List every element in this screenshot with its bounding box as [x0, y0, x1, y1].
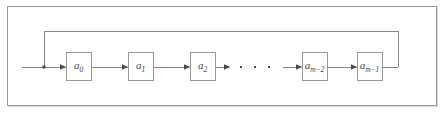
- ellipsis-dot-1: [240, 66, 242, 68]
- cell-box-2[interactable]: [190, 52, 215, 80]
- feedback-junction-dot: [43, 66, 46, 69]
- arrowhead-into-cell1: [122, 64, 128, 70]
- cell-box-1[interactable]: [128, 52, 153, 80]
- arrowhead-into-cellm2: [296, 64, 302, 70]
- arrowhead-into-cellm1: [351, 64, 357, 70]
- cell-box-m-2[interactable]: [302, 52, 327, 80]
- ellipsis-dots: [240, 66, 270, 68]
- cell-box-0[interactable]: [66, 52, 91, 80]
- ellipsis-dot-2: [254, 66, 256, 68]
- figure-root: a0 a1 a2 am−2 am−1: [0, 0, 447, 115]
- shift-register-diagram: [0, 0, 447, 115]
- cell-box-m-1[interactable]: [357, 52, 382, 80]
- arrowhead-into-cell0: [60, 64, 66, 70]
- arrowhead-into-cell2: [184, 64, 190, 70]
- ellipsis-dot-3: [268, 66, 270, 68]
- arrowhead-before-ellipsis: [224, 64, 230, 70]
